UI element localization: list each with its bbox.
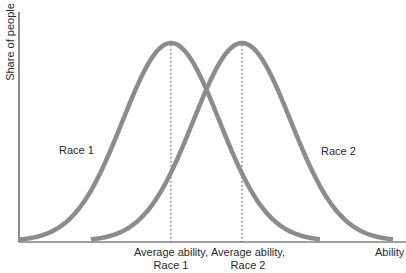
- curve-race1: [20, 43, 320, 239]
- x-axis-label: Ability: [375, 246, 404, 259]
- avg-race2-line1: Average ability,: [211, 246, 285, 259]
- avg-race1-line2: Race 1: [134, 259, 208, 272]
- chart-canvas: [0, 0, 406, 273]
- race2-label: Race 2: [321, 145, 356, 158]
- avg-race1-label: Average ability, Race 1: [134, 246, 208, 272]
- avg-race2-label: Average ability, Race 2: [211, 246, 285, 272]
- race1-label: Race 1: [59, 144, 94, 157]
- avg-race2-line2: Race 2: [211, 259, 285, 272]
- avg-race1-line1: Average ability,: [134, 246, 208, 259]
- y-axis-label: Share of people: [4, 0, 16, 87]
